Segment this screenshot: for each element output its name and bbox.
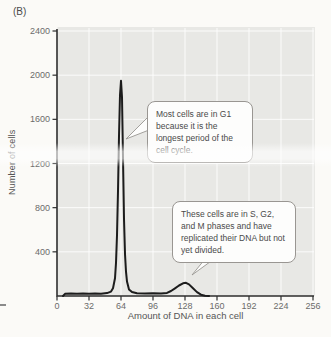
callout-g1-text: Most cells are in G1 because it is the l… [156,109,233,155]
page-crop-dash [0,304,6,306]
y-tick-label: 400 [35,247,50,257]
y-tick-label: 1600 [30,114,50,124]
textbook-figure-dna-histogram: (B) Number of cells 40080012001600200024… [0,0,331,337]
callout-s-g2-m: These cells are in S, G2, and M phases a… [172,201,296,263]
dna-histogram-plot: 4008001200160020002400032649612816019222… [0,0,331,337]
x-axis-label: Amount of DNA in each cell [57,310,314,321]
y-tick-label: 2400 [30,26,50,36]
callout-g1: Most cells are in G1 because it is the l… [147,101,253,163]
y-tick-label: 800 [35,203,50,213]
callout-s-g2-m-text: These cells are in S, G2, and M phases a… [181,209,285,255]
y-tick-label: 2000 [30,70,50,80]
y-tick-label: 1200 [30,159,50,169]
